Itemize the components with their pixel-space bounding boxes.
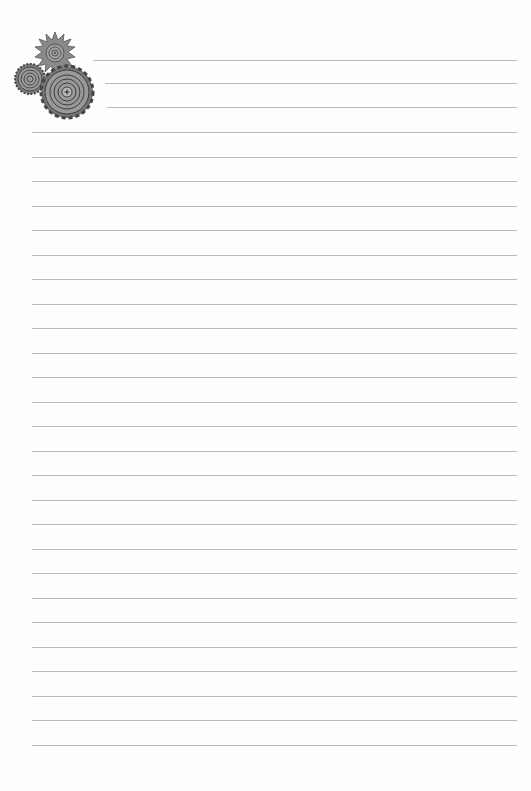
header-rule <box>105 83 517 84</box>
body-rule <box>32 426 517 427</box>
body-rule <box>32 402 517 403</box>
body-rule <box>32 647 517 648</box>
body-rule <box>32 181 517 182</box>
notepaper-page <box>0 0 531 791</box>
header-rule <box>107 107 517 108</box>
body-rule <box>32 353 517 354</box>
body-rule <box>32 377 517 378</box>
body-rule <box>32 157 517 158</box>
body-rule <box>32 230 517 231</box>
body-rule <box>32 475 517 476</box>
gears-icon <box>14 30 96 120</box>
body-rule <box>32 500 517 501</box>
body-rule <box>32 206 517 207</box>
header-rule <box>93 60 517 61</box>
body-rule <box>32 279 517 280</box>
body-rule <box>32 671 517 672</box>
body-rule <box>32 255 517 256</box>
body-rule <box>32 573 517 574</box>
body-rule <box>32 304 517 305</box>
body-rule <box>32 745 517 746</box>
body-rule <box>32 598 517 599</box>
body-rule <box>32 549 517 550</box>
body-rule <box>32 720 517 721</box>
body-rule <box>32 696 517 697</box>
body-rule <box>32 132 517 133</box>
body-rule <box>32 451 517 452</box>
body-rule <box>32 524 517 525</box>
body-rule <box>32 328 517 329</box>
body-rule <box>32 622 517 623</box>
